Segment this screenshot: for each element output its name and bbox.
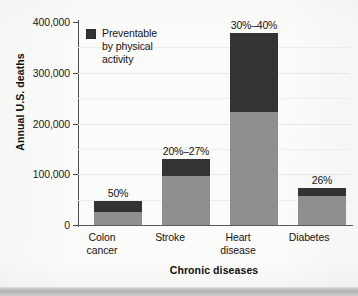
bar-group-heart-disease[interactable]: 30%–40%	[230, 22, 278, 225]
bar-group-diabetes[interactable]: 26%	[298, 22, 346, 225]
bar-segment-preventable-heart-disease	[230, 33, 278, 112]
bar-segment-not-preventable-heart-disease	[230, 112, 278, 225]
bar-diabetes[interactable]	[298, 188, 346, 225]
y-axis-title: Annual U.S. deaths	[14, 37, 26, 167]
x-axis-line	[78, 225, 353, 226]
bar-segment-preventable-diabetes	[298, 188, 346, 195]
legend-label-preventable: Preventable by physical activity	[102, 27, 157, 66]
bar-segment-preventable-stroke	[162, 159, 210, 176]
x-axis-label-stroke-line-1: Stroke	[138, 231, 202, 244]
bar-label-diabetes: 26%	[312, 174, 332, 186]
bar-segment-not-preventable-colon-cancer	[94, 212, 142, 225]
scan-bottom-band	[0, 286, 358, 296]
bar-label-heart-disease: 30%–40%	[231, 19, 277, 31]
x-axis-label-colon-cancer: Colon cancer	[70, 231, 134, 256]
legend-label-line-1: Preventable	[102, 27, 157, 40]
legend: Preventable by physical activity	[86, 27, 157, 66]
x-axis-label-heart-disease-line-2: disease	[206, 244, 270, 257]
legend-label-line-3: activity	[102, 53, 157, 66]
bar-segment-not-preventable-stroke	[162, 176, 210, 225]
bar-segment-preventable-colon-cancer	[94, 201, 142, 212]
x-axis-label-stroke: Stroke	[138, 231, 202, 244]
legend-swatch-preventable-icon	[86, 29, 96, 39]
bar-label-stroke: 20%–27%	[163, 145, 209, 157]
bar-group-stroke[interactable]: 20%–27%	[162, 22, 210, 225]
bar-label-colon-cancer: 50%	[108, 187, 128, 199]
x-axis-label-heart-disease-line-1: Heart	[206, 231, 270, 244]
y-tick-label-100000: 100,000	[33, 168, 70, 180]
x-axis-label-heart-disease: Heart disease	[206, 231, 270, 256]
y-tick-label-400000: 400,000	[33, 16, 70, 28]
x-axis-label-colon-cancer-line-2: cancer	[70, 244, 134, 257]
legend-label-line-2: by physical	[102, 40, 157, 53]
y-axis-tick-labels: 400,000 300,000 200,000 100,000 0	[0, 0, 70, 296]
bar-heart-disease[interactable]	[230, 33, 278, 225]
bar-colon-cancer[interactable]	[94, 201, 142, 225]
x-axis-label-colon-cancer-line-1: Colon	[70, 231, 134, 244]
x-axis-label-diabetes: Diabetes	[274, 231, 344, 244]
y-tick-label-300000: 300,000	[33, 67, 70, 79]
bar-segment-not-preventable-diabetes	[298, 196, 346, 225]
chart-figure: 400,000 300,000 200,000 100,000 0 Annual…	[0, 0, 358, 296]
y-tick-label-0: 0	[64, 219, 70, 231]
x-axis-title: Chronic diseases	[78, 264, 350, 276]
bar-stroke[interactable]	[162, 159, 210, 225]
x-axis-label-diabetes-line-1: Diabetes	[274, 231, 344, 244]
y-tick-label-200000: 200,000	[33, 118, 70, 130]
